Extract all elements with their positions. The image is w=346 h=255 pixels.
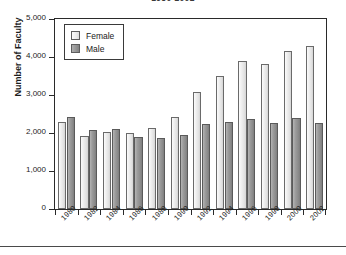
x-axis-tick <box>168 210 169 215</box>
y-axis-tick-label: 0 <box>42 203 46 212</box>
y-axis-tick-label: 1,000 <box>26 165 46 174</box>
x-axis-tick <box>191 210 192 215</box>
y-axis-tick-label: 3,000 <box>26 89 46 98</box>
bar-female-1990 <box>171 117 179 209</box>
y-axis-tick: 1,000 <box>0 171 54 172</box>
bar-female-1994 <box>216 76 224 209</box>
x-axis-tick <box>123 210 124 215</box>
bar-male-1988 <box>157 138 165 209</box>
bar-male-1992 <box>202 124 210 209</box>
y-axis-tick-mark <box>49 19 54 20</box>
bar-male-1994 <box>225 122 233 209</box>
y-axis-tick-label: 2,000 <box>26 127 46 136</box>
faculty-bar-chart-figure: 1980-2002 Number of Faculty Female Male … <box>0 0 346 255</box>
bar-female-1998 <box>261 64 269 209</box>
bar-female-2000 <box>284 51 292 209</box>
x-axis-tick <box>303 210 304 215</box>
bar-male-1984 <box>112 129 120 209</box>
legend-item-female: Female <box>71 29 114 42</box>
bar-female-1986 <box>126 133 134 209</box>
bar-female-1996 <box>238 61 246 209</box>
y-axis-tick-mark <box>49 57 54 58</box>
x-axis-tick <box>100 210 101 215</box>
x-axis-tick <box>78 210 79 215</box>
bar-female-2002 <box>306 46 314 209</box>
bar-male-2002 <box>315 123 323 209</box>
bottom-divider <box>0 246 346 247</box>
y-axis-tick: 4,000 <box>0 57 54 58</box>
legend-label-male: Male <box>86 44 104 54</box>
y-axis-tick-mark <box>49 209 54 210</box>
y-axis-title: Number of Faculty <box>13 0 23 117</box>
bar-female-1982 <box>80 136 88 209</box>
chart-legend: Female Male <box>64 24 124 60</box>
chart-title: 1980-2002 <box>0 0 346 3</box>
bar-female-1988 <box>148 128 156 209</box>
x-axis-tick <box>258 210 259 215</box>
y-axis-tick: 0 <box>0 209 54 210</box>
y-axis-tick-mark <box>49 95 54 96</box>
x-axis-tick <box>236 210 237 215</box>
y-axis-tick-mark <box>49 133 54 134</box>
x-axis-tick <box>145 210 146 215</box>
bar-female-1984 <box>103 132 111 209</box>
x-axis-tick <box>281 210 282 215</box>
bar-female-1980 <box>58 122 66 209</box>
bar-male-1980 <box>67 117 75 209</box>
bar-male-1996 <box>247 119 255 209</box>
x-axis-tick <box>325 210 326 215</box>
bar-female-1992 <box>193 92 201 209</box>
bar-male-1998 <box>270 123 278 209</box>
legend-swatch-male-icon <box>71 44 80 53</box>
y-axis-tick: 3,000 <box>0 95 54 96</box>
y-axis-tick: 2,000 <box>0 133 54 134</box>
bar-male-2000 <box>292 118 300 209</box>
y-axis-tick: 5,000 <box>0 19 54 20</box>
y-axis-tick-label: 4,000 <box>26 51 46 60</box>
bar-male-1986 <box>134 137 142 209</box>
bar-male-1990 <box>180 135 188 209</box>
legend-label-female: Female <box>86 31 114 41</box>
y-axis-tick-label: 5,000 <box>26 13 46 22</box>
x-axis-tick <box>55 210 56 215</box>
legend-item-male: Male <box>71 42 114 55</box>
legend-swatch-female-icon <box>71 31 80 40</box>
y-axis-tick-mark <box>49 171 54 172</box>
bar-male-1982 <box>89 130 97 209</box>
x-axis-tick <box>213 210 214 215</box>
